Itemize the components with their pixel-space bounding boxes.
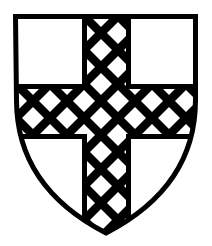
coat-of-arms-image: Coat of Arms Heraldic shield charged wit…: [0, 0, 212, 246]
shield-field: [0, 0, 212, 246]
shield-graphic: Coat of Arms Heraldic shield charged wit…: [0, 0, 212, 246]
